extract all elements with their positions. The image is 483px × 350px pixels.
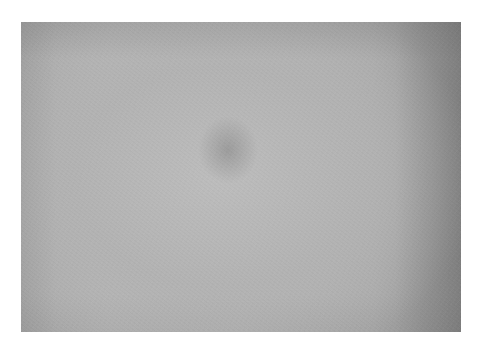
- paper-grain-texture: [21, 22, 461, 332]
- gray-surface-photo: [21, 22, 461, 332]
